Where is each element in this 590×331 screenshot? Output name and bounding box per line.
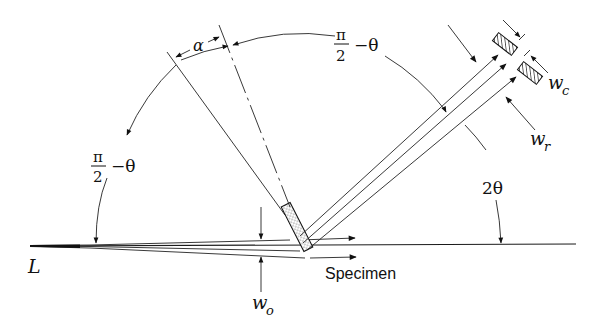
label-two-theta: 2θ [482,178,503,198]
wr-dimension [448,25,535,130]
svg-text:π: π [336,26,346,44]
arc-right-arrow-a [445,110,446,112]
label-w-o: w o [252,292,274,318]
svg-text:o: o [266,303,274,318]
receiving-slit-upper [492,33,517,56]
svg-text:2: 2 [93,168,103,186]
specimen [281,202,313,251]
arc-top [233,34,335,45]
arc-two-theta [465,125,486,150]
label-w-r: w r [530,128,551,154]
alpha-arrow-right [208,37,219,42]
arc-left [127,65,176,135]
svg-text:2: 2 [336,47,346,65]
arc-alpha [181,46,228,60]
transmitted-arrow-lower [310,257,356,258]
svg-text:−θ: −θ [111,156,135,176]
arc-two-theta-lower [496,200,501,243]
label-specimen: Specimen [325,265,396,282]
left-angle-arrow [96,178,107,243]
svg-text:−θ: −θ [354,35,378,55]
label-top-angle: π 2 −θ [334,26,378,65]
specimen-edge-line [167,52,285,215]
label-alpha: α [193,36,204,55]
receiving-slit-lower [517,62,542,85]
specimen-normal-dashdot [219,25,290,207]
svg-text:r: r [544,139,551,154]
arc-right [385,56,445,110]
label-w-c: w c [548,72,570,98]
svg-text:π: π [93,148,103,166]
diffraction-geometry-diagram: L α π 2 −θ π 2 −θ 2θ w c w r w o Specime… [0,0,590,331]
incident-beam [30,240,305,258]
alpha-arrow-left [176,50,190,57]
svg-text:c: c [562,83,570,98]
label-left-angle: π 2 −θ [91,148,135,186]
diffracted-beams [300,55,516,250]
label-L: L [27,255,41,277]
